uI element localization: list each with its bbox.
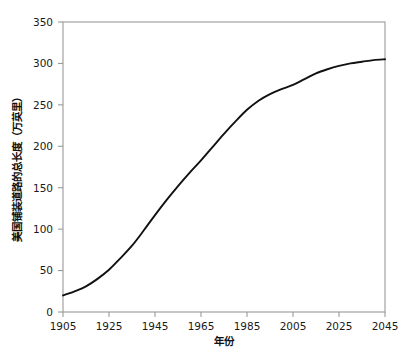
x-tick-label: 2025 [326,320,353,332]
x-tick-label: 1945 [142,320,169,332]
y-tick-label: 100 [33,223,53,235]
y-tick-label: 50 [40,264,53,276]
y-tick-label: 200 [33,140,53,152]
x-tickmarks [63,312,385,317]
y-tick-label: 250 [33,99,53,111]
x-tick-label: 2005 [280,320,307,332]
y-tick-label: 150 [33,182,53,194]
x-tick-label: 1965 [188,320,215,332]
y-tick-labels: 0 50 100 150 200 250 300 350 [33,16,53,318]
x-tick-label: 1985 [234,320,261,332]
y-tick-label: 300 [33,57,53,69]
y-tick-label: 350 [33,16,53,28]
x-axis-title: 年份 [214,335,235,347]
y-tickmarks [58,22,63,312]
chart-figure: 1905 1925 1945 1965 1985 2005 2025 2045 … [0,0,412,348]
data-series-line [63,59,385,295]
x-tick-label: 1905 [50,320,77,332]
x-tick-label: 2045 [372,320,399,332]
x-tick-labels: 1905 1925 1945 1965 1985 2005 2025 2045 [50,320,399,332]
y-axis-title: 美国铺装道路的总长度（万英里） [11,92,23,242]
x-tick-label: 1925 [96,320,123,332]
y-tick-label: 0 [46,306,53,318]
line-chart: 1905 1925 1945 1965 1985 2005 2025 2045 … [0,0,412,348]
